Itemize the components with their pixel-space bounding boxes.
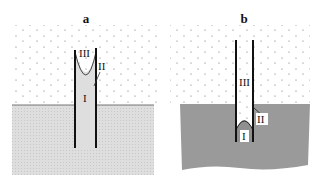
region-label-II-b: II [257, 113, 265, 125]
panel-b-label: b [240, 11, 247, 26]
panel-a: a III II I [12, 11, 157, 175]
region-label-II-a: II [98, 60, 106, 72]
panel-a-label: a [83, 11, 90, 26]
region-label-I-a: I [83, 92, 87, 104]
region-label-I-b: I [242, 130, 246, 142]
capillary-diagram: a III II I b III II I [0, 0, 318, 183]
region-label-III-a: III [79, 47, 90, 59]
region-label-III-b: III [239, 76, 250, 88]
panel-b: b III II I [170, 11, 310, 170]
